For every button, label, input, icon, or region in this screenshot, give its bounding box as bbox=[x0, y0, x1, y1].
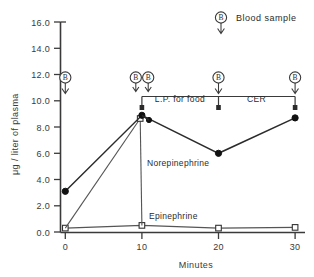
y-ticklabel-4: 4.0 bbox=[37, 175, 50, 185]
x-ticklabel-10: 10 bbox=[137, 242, 148, 252]
legend: B Blood sample bbox=[215, 12, 296, 34]
down-arrow-icon bbox=[62, 83, 69, 94]
y-ticklabel-2: 2.0 bbox=[37, 201, 50, 211]
chart-svg: 16.0 14.0 12.0 10.0 8.0 6.0 4.0 2.0 0.0 … bbox=[0, 0, 314, 277]
blood-marker-10b: B bbox=[143, 72, 154, 92]
y-ticklabel-12: 12.0 bbox=[31, 70, 50, 80]
epinephrine-line bbox=[65, 225, 295, 228]
epinephrine-riser bbox=[65, 116, 143, 228]
series-norepinephrine bbox=[62, 112, 298, 194]
bracket-foot-right bbox=[293, 105, 298, 110]
blood-marker-10a: B bbox=[130, 72, 141, 92]
down-arrow-icon bbox=[145, 83, 151, 92]
y-axis: 16.0 14.0 12.0 10.0 8.0 6.0 4.0 2.0 0.0 … bbox=[10, 18, 66, 238]
norepinephrine-point-30 bbox=[292, 115, 298, 121]
epinephrine-point-30 bbox=[292, 225, 298, 231]
down-arrow-icon bbox=[133, 83, 139, 92]
norepinephrine-point-20 bbox=[215, 150, 221, 156]
y-ticklabel-0: 0.0 bbox=[37, 228, 50, 238]
bracket-foot-left bbox=[140, 105, 145, 110]
legend-label: Blood sample bbox=[236, 13, 297, 23]
blood-marker-letter: B bbox=[63, 73, 68, 82]
epinephrine-riser-line bbox=[65, 119, 140, 229]
down-arrow-icon bbox=[215, 83, 222, 94]
down-arrow-icon bbox=[218, 23, 225, 34]
x-ticklabel-20: 20 bbox=[213, 242, 224, 252]
y-ticklabel-10: 10.0 bbox=[31, 96, 50, 106]
down-arrow-icon bbox=[292, 83, 299, 94]
blood-marker-30: B bbox=[290, 72, 301, 94]
series-label-norepinephrine: Norepinephrine bbox=[147, 158, 209, 168]
blood-marker-letter: B bbox=[133, 73, 138, 82]
epinephrine-fall-line bbox=[140, 119, 142, 226]
blood-marker-letter: B bbox=[216, 73, 221, 82]
series-epinephrine bbox=[63, 223, 298, 231]
norepinephrine-point-0 bbox=[62, 188, 68, 194]
epinephrine-point-20 bbox=[216, 225, 222, 231]
blood-marker-letter: B bbox=[146, 73, 151, 82]
bracket-label-cer: CER bbox=[247, 94, 266, 104]
blood-marker-20: B bbox=[213, 72, 224, 94]
chart-figure: 16.0 14.0 12.0 10.0 8.0 6.0 4.0 2.0 0.0 … bbox=[0, 0, 314, 277]
event-bracket-bar: L.P. for food CER bbox=[140, 94, 298, 110]
y-axis-title: μg / liter of plasma bbox=[10, 93, 20, 175]
bracket-label-lp-for-food: L.P. for food bbox=[155, 94, 205, 104]
series-label-epinephrine: Epinephrine bbox=[149, 211, 198, 221]
y-ticklabel-6: 6.0 bbox=[37, 149, 50, 159]
y-ticklabel-14: 14.0 bbox=[31, 44, 50, 54]
blood-marker-0: B bbox=[60, 72, 71, 94]
y-ticklabel-16: 16.0 bbox=[31, 18, 50, 28]
x-ticklabel-0: 0 bbox=[63, 242, 68, 252]
x-axis: 0 10 20 30 Minutes bbox=[61, 233, 306, 271]
blood-marker-letter: B bbox=[293, 73, 298, 82]
x-axis-title: Minutes bbox=[179, 260, 213, 270]
x-ticklabel-30: 30 bbox=[290, 242, 301, 252]
norepinephrine-line bbox=[65, 115, 295, 191]
y-ticklabel-8: 8.0 bbox=[37, 123, 50, 133]
bracket-foot-middle bbox=[216, 105, 221, 110]
legend-blood-letter: B bbox=[218, 13, 223, 22]
